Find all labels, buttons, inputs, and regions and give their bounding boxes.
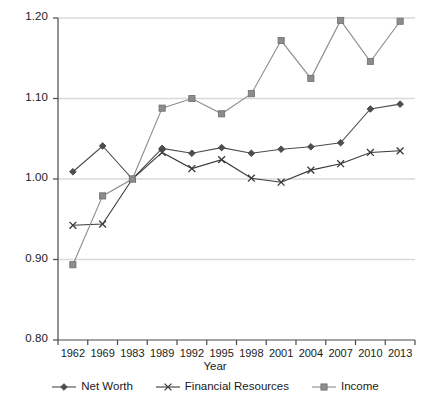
data-point bbox=[159, 105, 165, 111]
x-axis-title: Year bbox=[0, 360, 430, 372]
y-tick-label: 1.20 bbox=[8, 10, 48, 22]
y-tick-label: 1.00 bbox=[8, 171, 48, 183]
legend-item-income[interactable]: Income bbox=[311, 381, 379, 393]
x-tick-label: 1962 bbox=[58, 347, 88, 359]
data-point bbox=[129, 176, 135, 182]
x-tick-label: 2007 bbox=[326, 347, 356, 359]
y-tick-label: 0.90 bbox=[8, 252, 48, 264]
data-point bbox=[278, 146, 285, 153]
data-point bbox=[248, 150, 255, 157]
data-point bbox=[308, 75, 314, 81]
legend-item-financial-resources[interactable]: Financial Resources bbox=[155, 381, 289, 393]
series-financial-resources bbox=[69, 147, 403, 228]
data-point bbox=[278, 37, 284, 43]
y-tick-label: 0.80 bbox=[8, 332, 48, 344]
x-tick-label: 2010 bbox=[356, 347, 386, 359]
square-marker-icon bbox=[311, 381, 337, 393]
series-net-worth bbox=[70, 101, 404, 182]
series-income bbox=[70, 17, 403, 268]
data-point bbox=[397, 101, 404, 108]
diamond-marker-icon bbox=[51, 381, 77, 393]
x-tick-label: 1969 bbox=[88, 347, 118, 359]
data-point bbox=[100, 193, 106, 199]
legend-item-net-worth[interactable]: Net Worth bbox=[51, 381, 133, 393]
data-point bbox=[367, 58, 373, 64]
x-tick-label: 2013 bbox=[385, 347, 415, 359]
data-point bbox=[188, 165, 195, 172]
line-chart-plot bbox=[0, 0, 430, 407]
data-point bbox=[219, 111, 225, 117]
y-tick-label: 1.10 bbox=[8, 91, 48, 103]
x-tick-label: 2004 bbox=[296, 347, 326, 359]
data-point bbox=[70, 262, 76, 268]
data-point bbox=[248, 91, 254, 97]
legend-label: Financial Resources bbox=[185, 381, 289, 393]
x-tick-label: 1995 bbox=[207, 347, 237, 359]
data-point bbox=[308, 144, 315, 151]
data-point bbox=[189, 95, 195, 101]
x-tick-label: 1983 bbox=[118, 347, 148, 359]
data-point bbox=[321, 384, 327, 390]
data-point bbox=[218, 156, 225, 163]
data-point bbox=[338, 17, 344, 23]
x-tick-label: 2001 bbox=[266, 347, 296, 359]
cross-marker-icon bbox=[155, 381, 181, 393]
data-point bbox=[218, 144, 225, 151]
chart-legend: Net WorthFinancial ResourcesIncome bbox=[0, 381, 430, 393]
x-tick-label: 1989 bbox=[147, 347, 177, 359]
chart-container: 1.201.101.000.900.80 1962196919831989199… bbox=[0, 0, 430, 407]
x-tick-label: 1992 bbox=[177, 347, 207, 359]
legend-label: Net Worth bbox=[81, 381, 133, 393]
data-point bbox=[189, 150, 196, 157]
x-tick-label: 1998 bbox=[237, 347, 267, 359]
data-point bbox=[61, 384, 68, 391]
legend-label: Income bbox=[341, 381, 379, 393]
data-point bbox=[397, 18, 403, 24]
